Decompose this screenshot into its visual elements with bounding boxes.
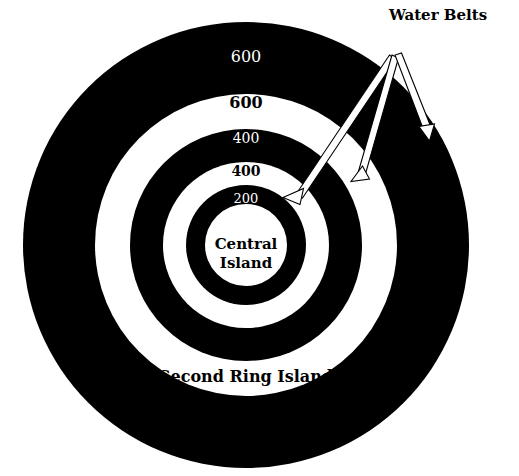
label-central-island-line1: Central [215,235,278,253]
measurement-200-inner-belt: 200 [234,191,259,206]
measurement-600-second-ring: 600 [229,93,262,112]
label-central-island-line2: Island [220,254,273,272]
label-second-ring-island: Second Ring Island [159,367,333,386]
atlantis-concentric-rings-diagram: 600 600 400 400 200 Central Island First… [0,0,519,476]
callout-label-water-belts: Water Belts [388,6,487,24]
measurement-400-middle-belt: 400 [233,130,260,146]
measurement-400-first-ring: 400 [231,163,260,179]
measurement-600-outer-belt: 600 [231,47,262,66]
diagram-canvas: 600 600 400 400 200 Central Island First… [0,0,519,476]
